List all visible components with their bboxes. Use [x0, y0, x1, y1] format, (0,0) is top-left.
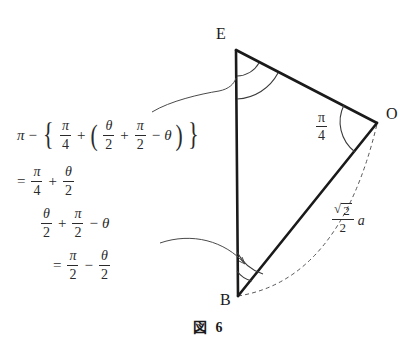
caption-label: 図	[193, 320, 208, 335]
vertex-label-B: B	[220, 292, 231, 308]
segment-EB	[236, 50, 238, 296]
theta-symbol: θ	[163, 128, 172, 143]
plus-operator: +	[45, 174, 59, 189]
derivation-line-1: π − { π 4 + ( θ 2 + π 2 − θ ) }	[12, 112, 202, 158]
derivation-line-2: = π 4 + θ 2	[12, 158, 202, 204]
plus-operator: +	[55, 216, 69, 231]
caption-number: 6	[208, 320, 224, 335]
fraction-pi-2: π 2	[132, 118, 149, 151]
radical-sign: √	[334, 202, 341, 216]
brace-open: {	[42, 124, 54, 146]
side-variable-a: a	[354, 207, 365, 229]
derivation-block: π − { π 4 + ( θ 2 + π 2 − θ ) } =	[12, 112, 202, 288]
angle-label-pi-over-4: π 4	[313, 110, 330, 143]
fraction-theta-2: θ 2	[38, 206, 55, 239]
angle-arc-E-inner	[237, 63, 259, 76]
fraction-sqrt2-over-2: √ 2 2	[332, 202, 354, 234]
fraction-theta-2: θ 2	[96, 248, 113, 281]
angle-arc-E-outer	[237, 73, 278, 99]
fraction-pi-4: π 4	[57, 118, 74, 151]
figure-page: E O B π 4 √ 2 2 a π − { π 4 +	[0, 0, 416, 346]
theta-symbol: θ	[101, 216, 110, 231]
leader-curve-E	[152, 78, 236, 112]
fraction-theta-2: θ 2	[100, 118, 117, 151]
equals-operator: =	[50, 258, 64, 273]
derivation-line-3: θ 2 + π 2 − θ	[12, 200, 202, 246]
plus-operator: +	[74, 128, 88, 143]
fraction-pi-2: π 2	[64, 248, 81, 281]
brace-close: }	[187, 124, 199, 146]
figure-caption: 図6	[0, 316, 416, 336]
fraction-pi-4: π 4	[313, 110, 330, 143]
segment-EO	[236, 50, 377, 123]
paren-close: )	[174, 124, 183, 146]
vertex-label-O: O	[386, 106, 398, 122]
fraction-pi-2: π 2	[69, 206, 86, 239]
minus-operator-2: −	[149, 128, 163, 143]
side-length-label-BO: √ 2 2 a	[332, 202, 365, 234]
angle-arc-O	[340, 105, 355, 152]
paren-open: (	[90, 124, 99, 146]
minus-operator: −	[26, 128, 40, 143]
pi-symbol: π	[16, 128, 26, 143]
denominator: 2	[332, 219, 354, 235]
fraction-pi-4: π 4	[28, 164, 45, 197]
derivation-line-4: = π 2 − θ 2	[12, 242, 202, 288]
minus-operator: −	[86, 216, 100, 231]
minus-operator: −	[81, 258, 95, 273]
fraction-theta-2: θ 2	[60, 164, 77, 197]
plus-operator-2: +	[117, 128, 131, 143]
radicand: 2	[341, 203, 352, 218]
vertex-label-E: E	[216, 26, 226, 42]
equals-operator: =	[14, 174, 28, 189]
